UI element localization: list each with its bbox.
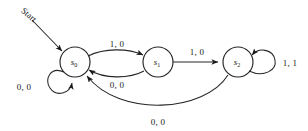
- transition-label-s2-self: 1, 1: [283, 58, 297, 68]
- start-arrow: [32, 20, 62, 51]
- transition-s2-s0: [87, 75, 228, 105]
- transition-s0-self: [48, 71, 72, 94]
- transition-label-s1-s2: 1, 0: [190, 47, 205, 57]
- state-node-s2[interactable]: s2: [223, 47, 253, 77]
- state-label-s0: s0: [71, 57, 78, 68]
- transition-s1-s0: [89, 70, 144, 77]
- state-node-s0[interactable]: s0: [60, 47, 90, 77]
- start-label: Start: [19, 5, 39, 24]
- transition-label-s0-s1: 1, 0: [110, 39, 125, 49]
- state-diagram-canvas: Start 0, 0 1, 0 0, 0 1, 0 1, 1 0, 0: [0, 0, 308, 131]
- state-label-s2: s2: [234, 57, 241, 68]
- state-label-s1: s1: [154, 57, 161, 68]
- fsm-diagram: Start 0, 0 1, 0 0, 0 1, 0 1, 1 0, 0: [0, 0, 308, 131]
- transition-label-s1-s0: 0, 0: [110, 80, 125, 90]
- transition-label-s0-self: 0, 0: [17, 82, 32, 92]
- state-node-s1[interactable]: s1: [143, 47, 173, 77]
- transition-label-s2-s0: 0, 0: [151, 117, 166, 127]
- transition-s0-s1: [88, 50, 143, 56]
